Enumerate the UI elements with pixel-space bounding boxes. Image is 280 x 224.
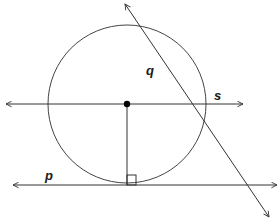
geometry-diagram: q s p (0, 0, 280, 224)
center-point (124, 101, 130, 107)
label-p: p (45, 169, 53, 182)
right-angle-marker (127, 175, 136, 185)
label-s: s (214, 89, 221, 102)
label-q: q (146, 64, 154, 77)
diagram-canvas (0, 0, 280, 224)
